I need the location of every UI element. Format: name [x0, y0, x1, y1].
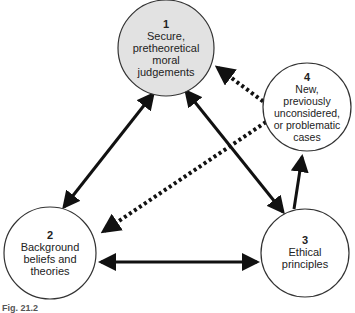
- node-4-line-4: or problematic: [274, 119, 341, 131]
- node-4-number: 4: [304, 71, 310, 83]
- edge-1-2-arrow: [64, 94, 153, 207]
- node-4-line-5: cases: [293, 131, 320, 143]
- node-1-number: 1: [163, 18, 169, 30]
- node-1-line-4: judgements: [138, 66, 195, 78]
- node-2-number: 2: [47, 229, 53, 241]
- edge-4-2-dotted-arrow: [104, 122, 266, 231]
- node-4-line-1: New,: [295, 83, 318, 95]
- node-4-line-3: unconsidered,: [274, 107, 340, 119]
- figure-caption: Fig. 21.2: [2, 303, 38, 313]
- node-4-line-2: previously: [283, 95, 330, 107]
- node-1-label: 1 Secure, pretheoretical moral judgement…: [118, 10, 214, 86]
- node-2-line-3: theories: [30, 265, 69, 277]
- edge-3-4-arrow: [294, 157, 302, 209]
- node-2-label: 2 Background beliefs and theories: [6, 225, 94, 281]
- edge-4-1-dotted-arrow: [218, 68, 268, 105]
- node-2-line-2: beliefs and: [23, 253, 76, 265]
- node-2-line-1: Background: [21, 241, 80, 253]
- node-1-line-2: pretheoretical: [133, 42, 200, 54]
- node-3-number: 3: [302, 234, 308, 246]
- node-1-line-1: Secure,: [147, 30, 185, 42]
- node-1-line-3: moral: [152, 54, 180, 66]
- node-3-label: 3 Ethical principles: [263, 232, 347, 272]
- node-3-line-2: principles: [282, 258, 328, 270]
- node-3-line-1: Ethical: [288, 246, 321, 258]
- node-4-label: 4 New, previously unconsidered, or probl…: [265, 71, 349, 143]
